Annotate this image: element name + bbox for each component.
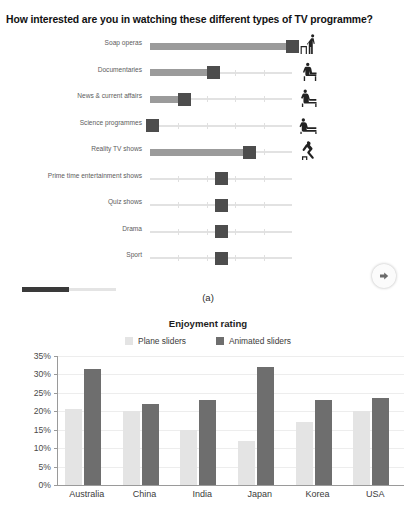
- slider-track[interactable]: [150, 257, 292, 259]
- slider-tick: [207, 229, 208, 235]
- x-axis-label: Korea: [289, 489, 347, 499]
- slider-track[interactable]: [150, 125, 292, 127]
- slider-handle[interactable]: [215, 252, 228, 265]
- slider-fill: [150, 43, 292, 50]
- slider-track[interactable]: [150, 151, 292, 153]
- y-axis-label: 30%: [34, 369, 51, 379]
- person-sitting-upright-icon: [298, 60, 320, 82]
- slider-label: Documentaries: [98, 66, 142, 73]
- slider-tick: [264, 255, 265, 261]
- slider-track[interactable]: [150, 178, 292, 180]
- slider-row: Science programmes: [0, 116, 416, 143]
- y-axis-tick: [54, 485, 58, 486]
- chart-bar: [238, 441, 255, 485]
- slider-row: Quiz shows: [0, 195, 416, 222]
- y-axis-label: 0%: [39, 480, 51, 490]
- slider-handle[interactable]: [286, 40, 299, 53]
- slider-tick: [207, 96, 208, 102]
- slider-label: Reality TV shows: [91, 145, 142, 152]
- slider-tick: [207, 176, 208, 182]
- slider-handle[interactable]: [178, 93, 191, 106]
- chart-bar: [257, 367, 274, 485]
- slider-tick: [207, 202, 208, 208]
- slider-handle[interactable]: [243, 146, 256, 159]
- slider-track[interactable]: [150, 98, 292, 100]
- slider-label: News & current affairs: [77, 92, 142, 99]
- slider-tick: [264, 70, 265, 76]
- chart-bar-group: Korea: [289, 356, 347, 485]
- slider-track[interactable]: [150, 231, 292, 233]
- person-standing-icon: [298, 33, 320, 55]
- slider-row: Soap operas: [0, 36, 416, 63]
- legend-label: Animated sliders: [229, 336, 291, 346]
- slider-tick: [235, 255, 236, 261]
- slider-tick: [264, 96, 265, 102]
- slider-row: News & current affairs: [0, 89, 416, 116]
- chart-bar: [296, 422, 313, 485]
- slider-row: Sport: [0, 248, 416, 275]
- slider-questionnaire-panel: How interested are you in watching these…: [0, 0, 416, 305]
- figure-caption-a: (a): [0, 292, 416, 303]
- slider-tick: [235, 229, 236, 235]
- x-axis-label: China: [116, 489, 174, 499]
- slider-label: Soap operas: [105, 39, 142, 46]
- slider-row: Documentaries: [0, 63, 416, 90]
- slider-label: Science programmes: [80, 119, 142, 126]
- slider-track[interactable]: [150, 204, 292, 206]
- slider-tick: [178, 202, 179, 208]
- chart-bar: [180, 430, 197, 485]
- x-axis-label: India: [173, 489, 231, 499]
- slider-fill: [150, 69, 214, 76]
- progress-bar: [22, 288, 116, 291]
- x-axis-label: Japan: [231, 489, 289, 499]
- slider-tick: [235, 70, 236, 76]
- y-axis-label: 15%: [34, 425, 51, 435]
- slider-handle[interactable]: [146, 119, 159, 132]
- chart-bar: [315, 400, 332, 485]
- legend-item[interactable]: Plane sliders: [125, 336, 186, 346]
- slider-tick: [235, 96, 236, 102]
- slider-row: Prime time entertainment shows: [0, 169, 416, 196]
- slider-tick: [178, 123, 179, 129]
- slider-handle[interactable]: [215, 199, 228, 212]
- next-button[interactable]: [372, 264, 396, 288]
- y-axis-label: 35%: [34, 351, 51, 361]
- slider-tick: [207, 255, 208, 261]
- slider-tick: [264, 176, 265, 182]
- legend-item[interactable]: Animated sliders: [216, 336, 291, 346]
- slider-tick: [264, 149, 265, 155]
- x-axis-label: USA: [346, 489, 404, 499]
- slider-label: Prime time entertainment shows: [48, 172, 142, 179]
- x-axis-label: Australia: [58, 489, 116, 499]
- slider-tick: [264, 229, 265, 235]
- chart-plot-area: 0%5%10%15%20%25%30%35%AustraliaChinaIndi…: [57, 356, 404, 486]
- arrow-right-icon: [378, 270, 390, 282]
- slider-label: Quiz shows: [108, 198, 142, 205]
- slider-handle[interactable]: [207, 66, 220, 79]
- slider-tick: [178, 255, 179, 261]
- slider-tick: [178, 176, 179, 182]
- person-leaning-icon: [298, 86, 320, 108]
- slider-label: Drama: [122, 225, 142, 232]
- chart-bar: [372, 398, 389, 485]
- slider-tick: [264, 123, 265, 129]
- slider-track[interactable]: [150, 72, 292, 74]
- y-axis-label: 10%: [34, 443, 51, 453]
- slider-label: Sport: [126, 251, 142, 258]
- slider-handle[interactable]: [215, 172, 228, 185]
- slider-tick: [235, 202, 236, 208]
- slider-handle[interactable]: [215, 225, 228, 238]
- chart-title: Enjoyment rating: [0, 318, 416, 329]
- page-title: How interested are you in watching these…: [6, 14, 410, 25]
- chart-bar: [353, 411, 370, 485]
- person-slouching-icon: [298, 139, 320, 161]
- slider-row: Drama: [0, 222, 416, 249]
- slider-track[interactable]: [150, 45, 292, 47]
- slider-row: Reality TV shows: [0, 142, 416, 169]
- chart-bar-group: Japan: [231, 356, 289, 485]
- chart-bar-group: India: [173, 356, 231, 485]
- slider-fill: [150, 149, 249, 156]
- slider-tick: [235, 123, 236, 129]
- chart-bar-group: China: [116, 356, 174, 485]
- chart-legend: Plane slidersAnimated sliders: [0, 336, 416, 346]
